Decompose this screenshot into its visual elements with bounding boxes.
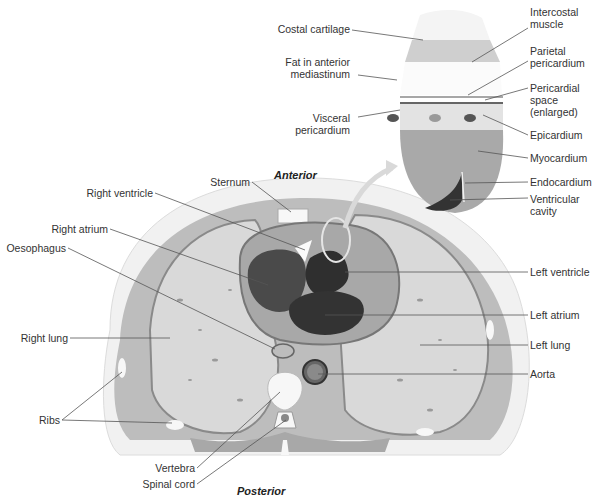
label-ventricular-cavity: Ventricular cavity: [530, 193, 580, 217]
rib-1: [118, 358, 126, 378]
label-pericardial-line2: space: [530, 94, 580, 106]
label-right-ventricle: Right ventricle: [86, 187, 153, 199]
posterior-label: Posterior: [237, 485, 285, 497]
label-costal-cartilage: Costal cartilage: [278, 23, 350, 35]
inset-costal: [412, 10, 490, 40]
label-parietal-pericardium: Parietal pericardium: [530, 45, 585, 69]
label-visceral-line1: Visceral: [295, 112, 350, 124]
label-ribs: Ribs: [39, 414, 60, 426]
label-intercostal-line2: muscle: [530, 18, 578, 30]
label-myocardium: Myocardium: [530, 152, 587, 164]
label-ventricular-line2: cavity: [530, 205, 580, 217]
label-right-lung: Right lung: [21, 332, 68, 344]
label-right-atrium: Right atrium: [51, 223, 108, 235]
label-intercostal-line1: Intercostal: [530, 6, 578, 18]
label-parietal-line2: pericardium: [530, 57, 585, 69]
label-left-atrium: Left atrium: [530, 309, 580, 321]
label-left-ventricle: Left ventricle: [530, 266, 590, 278]
label-visceral-pericardium: Visceral pericardium: [295, 112, 350, 136]
rib-4: [416, 428, 434, 436]
label-intercostal-muscle: Intercostal muscle: [530, 6, 578, 30]
label-fat-anterior-mediastinum: Fat in anterior mediastinum: [285, 56, 350, 80]
label-ventricular-line1: Ventricular: [530, 193, 580, 205]
label-fat-line2: mediastinum: [285, 68, 350, 80]
inset-fat: [400, 62, 502, 95]
anterior-label: Anterior: [274, 169, 317, 181]
label-spinal-cord: Spinal cord: [142, 478, 195, 490]
rib-2: [166, 420, 184, 430]
inset-intercostal: [405, 40, 500, 62]
label-visceral-line2: pericardium: [295, 124, 350, 136]
label-endocardium: Endocardium: [530, 176, 592, 188]
label-left-lung: Left lung: [530, 339, 570, 351]
sternum-bone: [278, 209, 308, 223]
label-vertebra: Vertebra: [155, 462, 195, 474]
label-oesophagus: Oesophagus: [6, 242, 66, 254]
label-epicardium: Epicardium: [530, 129, 583, 141]
label-aorta: Aorta: [530, 368, 555, 380]
label-sternum: Sternum: [210, 176, 250, 188]
label-pericardial-line1: Pericardial: [530, 82, 580, 94]
rib-3: [486, 320, 494, 340]
label-fat-line1: Fat in anterior: [285, 56, 350, 68]
label-parietal-line1: Parietal: [530, 45, 585, 57]
oesophagus-shape: [272, 344, 294, 358]
label-pericardial-space: Pericardial space (enlarged): [530, 82, 580, 118]
label-pericardial-line3: (enlarged): [530, 106, 580, 118]
